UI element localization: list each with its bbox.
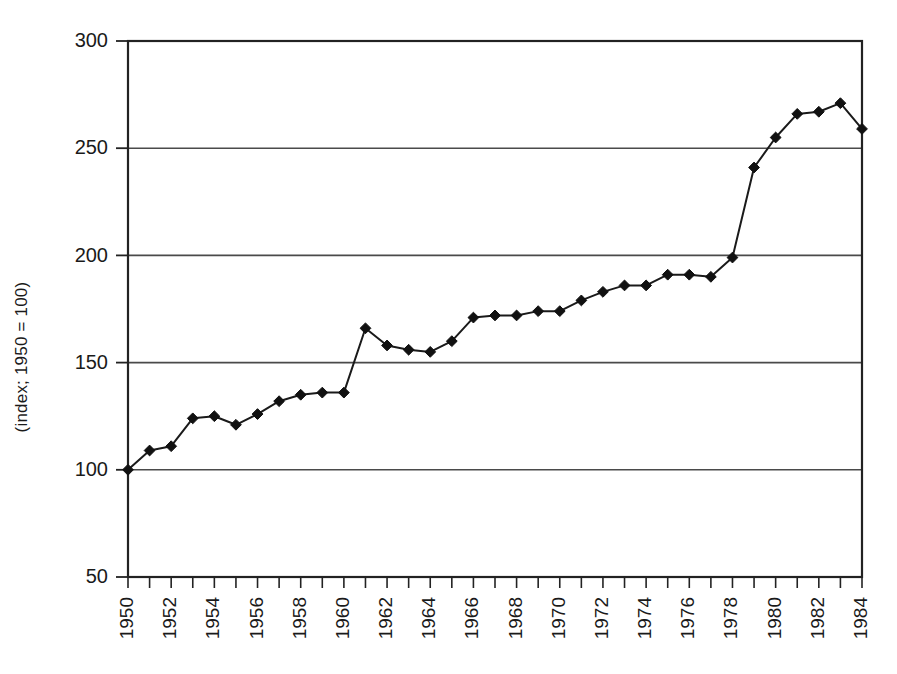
x-tick-label-1954: 1954 [202,597,223,640]
data-point-1964 [425,346,436,357]
plot-area-wrapper: 50100150200250300 1950195219541956195819… [0,0,897,674]
y-tick-label-100: 100 [75,458,108,480]
y-tick-label-250: 250 [75,136,108,158]
x-tick-label-1968: 1968 [505,597,526,639]
y-tick-label-50: 50 [86,565,108,587]
x-tick-label-1956: 1956 [246,597,267,639]
x-tick-label-1960: 1960 [332,597,353,639]
line-chart-svg: 50100150200250300 1950195219541956195819… [0,0,897,674]
x-tick-label-1978: 1978 [720,597,741,639]
x-tick-label-1982: 1982 [807,597,828,639]
x-axis-ticks [128,577,862,588]
data-point-1963 [403,344,414,355]
x-tick-label-1976: 1976 [677,597,698,639]
x-tick-label-1980: 1980 [764,597,785,639]
data-point-1972 [598,286,609,297]
data-point-1957 [274,396,285,407]
data-point-1967 [490,310,501,321]
x-tick-label-1974: 1974 [634,597,655,640]
data-point-1969 [533,306,544,317]
data-point-1971 [576,295,587,306]
x-tick-label-1972: 1972 [591,597,612,639]
data-point-1982 [813,106,824,117]
data-markers [123,98,868,475]
y-axis-ticks [116,41,128,577]
series-line-index [128,103,862,470]
plot-border [128,41,862,577]
data-point-1956 [252,409,263,420]
y-tick-label-150: 150 [75,351,108,373]
x-tick-label-1952: 1952 [159,597,180,639]
chart-figure: (index; 1950 = 100) 50100150200250300 19… [0,0,897,674]
data-point-1960 [338,387,349,398]
data-series [128,103,862,470]
x-tick-label-1958: 1958 [289,597,310,639]
data-point-1959 [317,387,328,398]
x-tick-label-1950: 1950 [116,597,137,639]
x-axis-tick-labels: 1950195219541956195819601962196419661968… [116,597,871,640]
data-point-1954 [209,411,220,422]
x-tick-label-1966: 1966 [461,597,482,639]
x-tick-label-1964: 1964 [418,597,439,640]
y-tick-label-300: 300 [75,29,108,51]
data-point-1975 [662,269,673,280]
plot-frame [128,41,862,577]
x-tick-label-1970: 1970 [548,597,569,639]
x-tick-label-1962: 1962 [375,597,396,639]
x-tick-label-1984: 1984 [850,597,871,640]
data-point-1968 [511,310,522,321]
data-point-1973 [619,280,630,291]
data-point-1955 [231,419,242,430]
data-point-1976 [684,269,695,280]
data-point-1970 [554,306,565,317]
data-point-1958 [295,389,306,400]
data-point-1974 [641,280,652,291]
y-axis-tick-labels: 50100150200250300 [75,29,108,587]
y-tick-label-200: 200 [75,244,108,266]
